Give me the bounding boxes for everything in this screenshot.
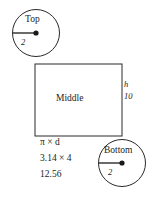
middle-rectangle-label: Middle <box>56 94 83 104</box>
circumference-substitution-label: 3.14 × 4 <box>40 154 71 164</box>
top-center-dot <box>33 30 38 35</box>
bottom-radius-label: 2 <box>108 168 112 177</box>
cylinder-net-diagram: Top 2 Middle h 10 Bottom 2 π × d 3.14 × … <box>0 0 152 198</box>
height-value-label: 10 <box>124 92 133 101</box>
circumference-formula-label: π × d <box>40 138 60 148</box>
circumference-result-label: 12.56 <box>40 170 61 180</box>
top-radius-label: 2 <box>21 38 25 47</box>
height-symbol-label: h <box>124 80 128 89</box>
top-circle-label: Top <box>25 15 40 25</box>
bottom-center-dot <box>119 160 124 165</box>
bottom-circle-label: Bottom <box>104 146 133 156</box>
